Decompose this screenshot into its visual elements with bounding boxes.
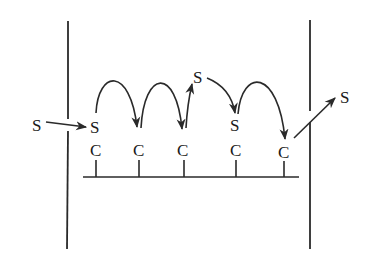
s-top: S <box>193 68 202 87</box>
hop-arrow-1 <box>96 81 137 127</box>
hop-arrow-4 <box>238 82 285 139</box>
diagram-canvas: C C C C C S S S S S <box>0 0 367 263</box>
diagram-svg: C C C C C S S S S S <box>0 0 367 263</box>
hop-arrow-3 <box>207 78 235 113</box>
hop-arrow-2 <box>141 83 182 129</box>
s-site-1: S <box>90 118 99 137</box>
left-wall <box>67 21 68 249</box>
site-stems <box>96 160 284 177</box>
s-site-4: S <box>230 116 239 135</box>
s-outgoing: S <box>340 88 349 107</box>
c-site-4: C <box>230 141 241 160</box>
c-site-1: C <box>90 141 101 160</box>
s-incoming: S <box>32 116 41 135</box>
arrow-outgoing <box>294 98 335 138</box>
desorb-arrow-up <box>186 84 192 128</box>
c-site-2: C <box>133 141 144 160</box>
arrow-incoming <box>46 122 86 127</box>
c-site-5: C <box>278 143 289 162</box>
c-site-3: C <box>177 141 188 160</box>
